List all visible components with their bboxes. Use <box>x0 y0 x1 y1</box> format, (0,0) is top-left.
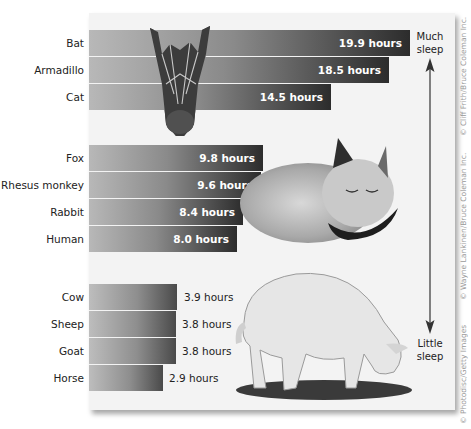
category-label-bat: Bat <box>66 30 84 56</box>
sheep-image <box>226 262 416 407</box>
bar-human: 8.0 hours <box>89 226 237 252</box>
bar-value: 19.9 hours <box>339 30 402 56</box>
axis-label-little-sleep: Little sleep <box>408 337 452 363</box>
category-label-rabbit: Rabbit <box>50 199 84 225</box>
bar-value: 8.0 hours <box>173 226 229 252</box>
bat-image-overlay <box>140 24 220 144</box>
category-label-goat: Goat <box>59 338 84 364</box>
bar-cow <box>89 284 177 310</box>
bar-value: 14.5 hours <box>260 84 323 110</box>
bar-goat <box>89 338 176 364</box>
bar-value-goat: 3.8 hours <box>182 338 232 364</box>
axis-label-much-sleep: Much sleep <box>408 30 452 56</box>
category-label-fox: Fox <box>66 145 84 171</box>
category-label-armadillo: Armadillo <box>34 57 84 83</box>
category-label-rhesus-monkey: Rhesus monkey <box>1 172 84 198</box>
bar-rabbit: 8.4 hours <box>89 199 243 225</box>
category-label-human: Human <box>46 226 84 252</box>
bar-horse <box>89 365 163 391</box>
category-label-horse: Horse <box>53 365 84 391</box>
bar-value-horse: 2.9 hours <box>169 365 219 391</box>
bar-value: 8.4 hours <box>179 199 235 225</box>
category-label-sheep: Sheep <box>51 311 84 337</box>
bar-value: 18.5 hours <box>318 57 381 83</box>
photo-credit-sheep: © Photodisc/Getty Images <box>459 325 468 424</box>
bar-rhesus-monkey: 9.6 hours <box>89 172 261 198</box>
photo-credit-fox: © Wayne Lankinen/Bruce Coleman Inc. <box>459 153 468 300</box>
category-label-cow: Cow <box>62 284 84 310</box>
category-label-cat: Cat <box>66 84 84 110</box>
fox-image <box>238 138 403 248</box>
bar-fox: 9.8 hours <box>89 145 263 171</box>
photo-credit-bat: © Cliff Frith/Bruce Coleman Inc. <box>459 17 468 136</box>
bar-bat: 19.9 hours <box>89 30 410 56</box>
bar-sheep <box>89 311 176 337</box>
bar-value-sheep: 3.8 hours <box>182 311 232 337</box>
bar-armadillo: 18.5 hours <box>89 57 389 83</box>
double-arrow-icon <box>424 58 436 334</box>
